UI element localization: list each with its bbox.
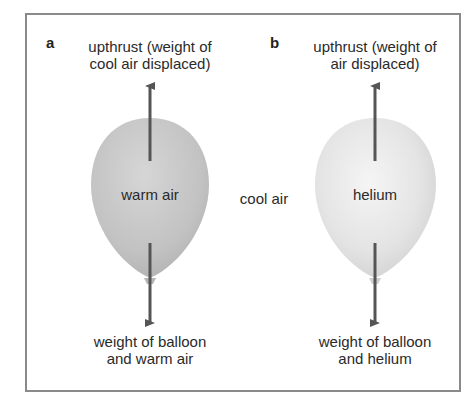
weight-label-a-line1: weight of balloon (70, 333, 230, 350)
upthrust-label-b: upthrust (weight of air displaced) (305, 38, 445, 72)
balloon-label-b: helium (325, 186, 425, 203)
upthrust-label-b-line1: upthrust (weight of (305, 38, 445, 55)
weight-label-b: weight of balloon and helium (295, 333, 455, 367)
weight-label-b-line1: weight of balloon (295, 333, 455, 350)
upthrust-label-a-line1: upthrust (weight of (80, 38, 220, 55)
balloon-label-a: warm air (100, 186, 200, 203)
weight-label-a: weight of balloon and warm air (70, 333, 230, 367)
weight-label-b-line2: and helium (295, 350, 455, 367)
upthrust-label-b-line2: air displaced) (305, 55, 445, 72)
panel-letter-b: b (270, 34, 279, 51)
upthrust-label-a: upthrust (weight of cool air displaced) (80, 38, 220, 72)
cool-air-label: cool air (225, 190, 303, 207)
panel-letter-a: a (46, 34, 54, 51)
weight-label-a-line2: and warm air (70, 350, 230, 367)
upthrust-label-a-line2: cool air displaced) (80, 55, 220, 72)
